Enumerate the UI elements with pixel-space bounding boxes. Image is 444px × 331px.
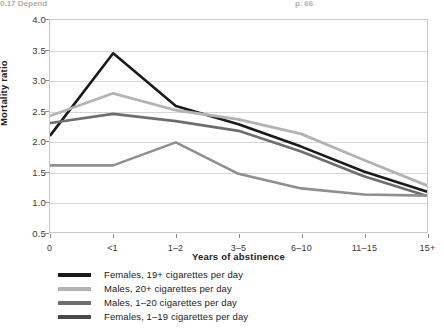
legend-item: Females, 1–19 cigarettes per day	[58, 310, 388, 324]
plot-area	[49, 19, 428, 233]
legend-label: Females, 19+ cigarettes per day	[104, 268, 243, 282]
legend-item: Males, 1–20 cigarettes per day	[58, 296, 388, 310]
series-line	[50, 53, 426, 191]
y-axis-tick-label: 2.0	[16, 136, 46, 147]
chart-figure: 0.17 Depend p. 66 Mortality ratio 4.03.5…	[0, 0, 444, 331]
legend-swatch	[58, 287, 91, 291]
y-axis-tick-label: 0.5	[16, 228, 46, 239]
legend-label: Males, 1–20 cigarettes per day	[104, 296, 237, 310]
legend-swatch	[58, 301, 91, 305]
x-axis-tick-mark	[365, 234, 366, 238]
legend-item: Females, 19+ cigarettes per day	[58, 268, 388, 282]
legend-swatch	[58, 315, 91, 319]
x-axis-tick-mark	[239, 234, 240, 238]
legend-label: Males, 20+ cigarettes per day	[104, 282, 232, 296]
y-axis-tick-label: 1.5	[16, 166, 46, 177]
chart-legend: Females, 19+ cigarettes per dayMales, 20…	[58, 268, 388, 324]
y-axis-tick-label: 3.0	[16, 75, 46, 86]
series-line	[50, 93, 426, 185]
page-header-left: 0.17 Depend	[0, 0, 47, 8]
legend-swatch	[58, 273, 91, 277]
x-axis-tick-mark	[113, 234, 114, 238]
y-axis-tick-label: 4.0	[16, 14, 46, 25]
legend-item: Males, 20+ cigarettes per day	[58, 282, 388, 296]
x-axis-tick-mark	[176, 234, 177, 238]
y-axis-tick-label: 1.0	[16, 197, 46, 208]
y-axis-tick-label: 2.5	[16, 105, 46, 116]
legend-label: Females, 1–19 cigarettes per day	[104, 310, 248, 324]
page-header-right: p. 66	[295, 0, 313, 8]
x-axis-tick-mark	[50, 234, 51, 238]
x-axis-tick-mark	[302, 234, 303, 238]
y-axis-tick-label: 3.5	[16, 44, 46, 55]
series-line	[50, 114, 426, 196]
series-line	[50, 142, 426, 195]
y-axis-ticks: 4.03.53.02.52.01.51.00.5	[8, 19, 46, 233]
page-header-strip: 0.17 Depend p. 66	[0, 0, 444, 8]
x-axis-label: Years of abstinence	[49, 251, 428, 262]
series-lines	[50, 20, 427, 232]
x-axis-tick-mark	[428, 234, 429, 238]
